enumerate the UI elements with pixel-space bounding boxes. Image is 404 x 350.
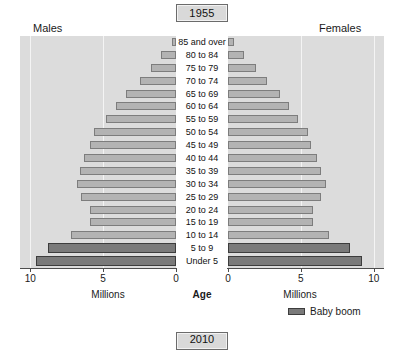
bar-male-70-to-74: [140, 77, 176, 85]
age-label: 15 to 19: [176, 216, 228, 229]
age-label: 80 to 84: [176, 49, 228, 62]
age-label: 20 to 24: [176, 204, 228, 217]
bar-male-20-to-24: [90, 206, 176, 214]
bar-male-15-to-19: [90, 218, 176, 226]
bar-female-45-to-49: [228, 141, 311, 149]
bar-male-35-to-39: [80, 167, 176, 175]
bar-female-35-to-39: [228, 167, 321, 175]
right-axis-2-label: 10: [368, 273, 379, 284]
pyramid-row: 55 to 59: [20, 113, 384, 126]
bar-male-10-to-14: [71, 231, 176, 239]
bar-female-50-to-54: [228, 128, 308, 136]
center-axis-title: Age: [193, 289, 212, 300]
right-axis-0-tick: [228, 268, 229, 272]
bar-female-10-to-14: [228, 231, 329, 239]
right-axis-1-tick: [301, 268, 302, 272]
age-label: Under 5: [176, 255, 228, 268]
left-axis-title: Millions: [91, 289, 124, 300]
left-axis-0-label: 10: [25, 273, 36, 284]
pyramid-row: 75 to 79: [20, 62, 384, 75]
age-label: 45 to 49: [176, 139, 228, 152]
bar-female-5-to-9: [228, 243, 350, 253]
age-label: 75 to 79: [176, 62, 228, 75]
pyramid-row: 5 to 9: [20, 242, 384, 255]
bar-male-40-to-44: [84, 154, 176, 162]
age-label: 35 to 39: [176, 165, 228, 178]
bar-female-30-to-34: [228, 180, 326, 188]
age-label: 60 to 64: [176, 100, 228, 113]
bar-female-65-to-69: [228, 90, 280, 98]
bar-female-under-5: [228, 256, 362, 266]
age-label: 70 to 74: [176, 75, 228, 88]
year-title-box: 1955: [176, 4, 228, 22]
pyramid-row: 70 to 74: [20, 75, 384, 88]
bar-male-30-to-34: [77, 180, 176, 188]
bar-male-65-to-69: [126, 90, 176, 98]
next-year-title-box: 2010: [176, 332, 228, 350]
bar-male-80-to-84: [161, 51, 176, 59]
right-axis-0-label: 0: [225, 273, 231, 284]
pyramid-row: 30 to 34: [20, 178, 384, 191]
year-title-text: 1955: [189, 7, 214, 19]
age-label: 85 and over: [168, 36, 236, 49]
bar-female-20-to-24: [228, 206, 313, 214]
pyramid-row: 40 to 44: [20, 152, 384, 165]
pyramid-row: 80 to 84: [20, 49, 384, 62]
bar-female-15-to-19: [228, 218, 313, 226]
bar-male-75-to-79: [151, 64, 176, 72]
bar-male-55-to-59: [106, 115, 176, 123]
right-axis-2-tick: [374, 268, 375, 272]
bar-male-45-to-49: [90, 141, 176, 149]
pyramid-row: 45 to 49: [20, 139, 384, 152]
right-axis-title: Millions: [283, 289, 316, 300]
bar-female-40-to-44: [228, 154, 317, 162]
left-axis-1-label: 5: [100, 273, 106, 284]
legend: Baby boom: [288, 306, 361, 317]
left-axis-2-label: 0: [173, 273, 179, 284]
bar-female-70-to-74: [228, 77, 267, 85]
females-header: Females: [319, 22, 361, 34]
bar-male-25-to-29: [81, 193, 176, 201]
age-label: 55 to 59: [176, 113, 228, 126]
pyramid-row: Under 5: [20, 255, 384, 268]
bar-female-55-to-59: [228, 115, 298, 123]
bar-female-80-to-84: [228, 51, 244, 59]
age-label: 65 to 69: [176, 88, 228, 101]
bar-male-under-5: [36, 256, 176, 266]
bar-male-50-to-54: [94, 128, 176, 136]
age-label: 10 to 14: [176, 229, 228, 242]
left-axis-1-tick: [103, 268, 104, 272]
legend-label: Baby boom: [310, 306, 361, 317]
age-label: 50 to 54: [176, 126, 228, 139]
pyramid-row: 25 to 29: [20, 191, 384, 204]
pyramid-row: 85 and over: [20, 36, 384, 49]
age-label: 5 to 9: [176, 242, 228, 255]
males-header: Males: [33, 22, 62, 34]
pyramid-row: 50 to 54: [20, 126, 384, 139]
bar-male-5-to-9: [48, 243, 176, 253]
left-axis-0-tick: [30, 268, 31, 272]
bar-female-25-to-29: [228, 193, 321, 201]
age-label: 30 to 34: [176, 178, 228, 191]
plot-area: 85 and over80 to 8475 to 7970 to 7465 to…: [20, 36, 384, 268]
pyramid-row: 65 to 69: [20, 88, 384, 101]
pyramid-row: 35 to 39: [20, 165, 384, 178]
right-axis-1-label: 5: [298, 273, 304, 284]
left-axis-2-tick: [176, 268, 177, 272]
pyramid-row: 15 to 19: [20, 216, 384, 229]
bar-female-60-to-64: [228, 102, 289, 110]
age-label: 40 to 44: [176, 152, 228, 165]
bar-female-75-to-79: [228, 64, 256, 72]
pyramid-row: 60 to 64: [20, 100, 384, 113]
age-label: 25 to 29: [176, 191, 228, 204]
baby-boom-swatch: [288, 308, 305, 315]
left-axis-line: [20, 268, 177, 269]
pyramid-row: 20 to 24: [20, 204, 384, 217]
right-axis-line: [227, 268, 384, 269]
pyramid-row: 10 to 14: [20, 229, 384, 242]
next-year-title-text: 2010: [190, 333, 214, 345]
bar-male-60-to-64: [116, 102, 176, 110]
